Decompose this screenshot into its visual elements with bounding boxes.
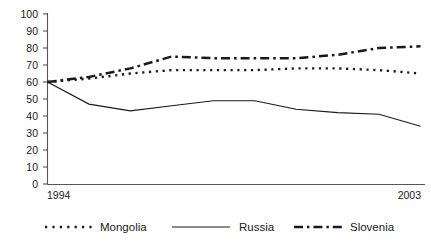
legend-label-mongolia: Mongolia bbox=[100, 221, 147, 233]
chart-legend: Mongolia Russia Slovenia bbox=[45, 221, 395, 233]
chart-svg: 100 90 80 70 60 50 40 30 20 10 0 1994 20… bbox=[0, 0, 431, 246]
legend-label-slovenia: Slovenia bbox=[350, 221, 395, 233]
y-tick-label-10: 10 bbox=[26, 161, 38, 173]
x-axis-tick-labels: 1994 2003 bbox=[47, 189, 421, 201]
line-chart-figure: 100 90 80 70 60 50 40 30 20 10 0 1994 20… bbox=[0, 0, 431, 246]
y-tick-label-50: 50 bbox=[26, 93, 38, 105]
y-tick-label-80: 80 bbox=[26, 42, 38, 54]
y-tick-label-100: 100 bbox=[20, 8, 38, 20]
series-line-russia bbox=[48, 82, 421, 126]
y-tick-label-70: 70 bbox=[26, 59, 38, 71]
y-tick-label-20: 20 bbox=[26, 144, 38, 156]
y-tick-label-60: 60 bbox=[26, 76, 38, 88]
series-group bbox=[48, 46, 421, 126]
y-axis-ticks bbox=[43, 14, 48, 184]
y-axis-tick-labels: 100 90 80 70 60 50 40 30 20 10 0 bbox=[20, 8, 38, 190]
legend-label-russia: Russia bbox=[239, 221, 275, 233]
y-tick-label-30: 30 bbox=[26, 127, 38, 139]
y-tick-label-90: 90 bbox=[26, 25, 38, 37]
y-tick-label-40: 40 bbox=[26, 110, 38, 122]
x-tick-label-2003: 2003 bbox=[398, 189, 422, 201]
x-tick-label-1994: 1994 bbox=[47, 189, 71, 201]
y-tick-label-0: 0 bbox=[32, 178, 38, 190]
series-line-mongolia bbox=[48, 68, 421, 82]
